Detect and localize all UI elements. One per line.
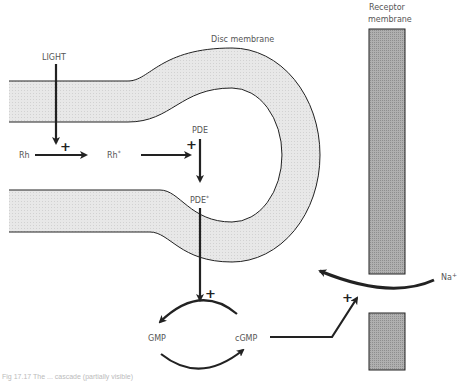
rh-label: Rh xyxy=(19,151,30,160)
gmp-to-cgmp-arc xyxy=(161,350,243,369)
plus-sign-pde: + xyxy=(186,137,197,152)
figure-caption: Fig 17.17 The ... cascade (partially vis… xyxy=(2,373,133,381)
plus-sign-channel: + xyxy=(342,290,353,305)
na-label: Na+ xyxy=(441,271,457,282)
pde-label: PDE xyxy=(192,126,208,135)
gmp-label: GMP xyxy=(148,334,166,343)
rh-active-label: Rh* xyxy=(107,149,121,160)
receptor-membrane-label-1: Receptor xyxy=(369,3,406,12)
receptor-membrane xyxy=(369,29,405,370)
phototransduction-diagram: LIGHT Disc membrane Receptor membrane Rh… xyxy=(0,0,465,381)
pde-active-label: PDE* xyxy=(190,194,209,205)
plus-sign-cycle: + xyxy=(205,286,216,301)
cgmp-label: cGMP xyxy=(235,334,258,343)
light-label: LIGHT xyxy=(42,53,66,62)
receptor-membrane-label-2: membrane xyxy=(368,15,412,24)
cgmp-to-gmp-arc xyxy=(160,300,237,322)
disc-membrane-label: Disc membrane xyxy=(211,35,274,44)
plus-sign-light: + xyxy=(60,139,71,154)
